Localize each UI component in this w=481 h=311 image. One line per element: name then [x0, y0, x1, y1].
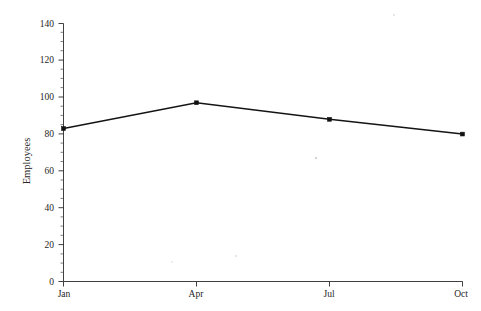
chart-figure: 0 20 40 60 80 100 120 140 Employees	[0, 0, 481, 311]
y-tick-label-0: 0	[49, 277, 54, 287]
y-tick-label-60: 60	[45, 166, 55, 176]
y-tick-label-120: 120	[40, 55, 55, 65]
y-tick-label-140: 140	[40, 19, 55, 29]
y-axis-title: Employees	[21, 138, 32, 185]
y-tick-label-40: 40	[45, 203, 55, 213]
data-point-oct	[461, 132, 465, 136]
figure-background	[0, 0, 481, 311]
x-tick-label-apr: Apr	[189, 289, 205, 299]
y-tick-label-100: 100	[40, 92, 55, 102]
data-point-apr	[195, 101, 199, 105]
x-tick-label-jul: Jul	[323, 289, 334, 299]
x-tick-label-oct: Oct	[454, 289, 468, 299]
employees-line-chart: 0 20 40 60 80 100 120 140 Employees	[0, 0, 481, 311]
y-tick-label-80: 80	[45, 129, 55, 139]
y-tick-label-20: 20	[45, 240, 55, 250]
data-point-jul	[328, 117, 332, 121]
data-point-jan	[62, 127, 66, 131]
x-tick-label-jan: Jan	[58, 289, 71, 299]
